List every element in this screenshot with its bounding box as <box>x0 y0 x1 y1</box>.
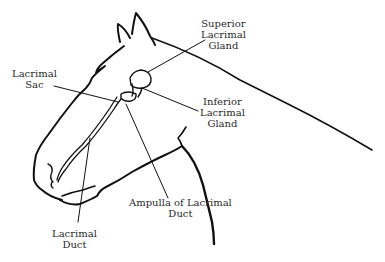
label-line: Gland <box>200 118 245 129</box>
label-line: Lacrimal <box>201 29 246 40</box>
ear-left <box>118 24 130 42</box>
label-lacrimal-sac: Lacrimal Sac <box>12 68 57 90</box>
label-line: Inferior <box>200 96 245 107</box>
label-line: Lacrimal <box>52 228 97 239</box>
throat-curve <box>178 127 186 146</box>
neck-crest-line <box>152 38 372 150</box>
ear-right <box>132 13 155 45</box>
label-line: Lacrimal <box>12 68 57 79</box>
label-line: Superior <box>201 18 246 29</box>
label-line: Duct <box>52 239 97 250</box>
label-line: Duct <box>129 208 232 219</box>
superior-lacrimal-gland-shape <box>130 70 151 88</box>
label-inferior-lacrimal-gland: Inferior Lacrimal Gland <box>200 96 245 129</box>
leader-ampulla <box>126 104 168 198</box>
nostril <box>48 164 53 188</box>
mouth-line <box>62 186 95 196</box>
inferior-lacrimal-gland-shape <box>121 92 136 101</box>
chin-line <box>60 146 182 205</box>
label-lacrimal-duct: Lacrimal Duct <box>52 228 97 250</box>
label-line: Sac <box>12 79 57 90</box>
leader-lacrimal-duct <box>78 138 90 222</box>
label-line: Ampulla of Lacrimal <box>129 197 232 208</box>
label-line: Lacrimal <box>200 107 245 118</box>
label-superior-lacrimal-gland: Superior Lacrimal Gland <box>201 18 246 51</box>
label-ampulla-of-lacrimal-duct: Ampulla of Lacrimal Duct <box>129 197 232 219</box>
jaw-line <box>182 146 214 244</box>
label-line: Gland <box>201 40 246 51</box>
leader-inferior <box>142 88 198 111</box>
horse-head-diagram <box>0 0 385 262</box>
gland-connector <box>132 84 142 97</box>
